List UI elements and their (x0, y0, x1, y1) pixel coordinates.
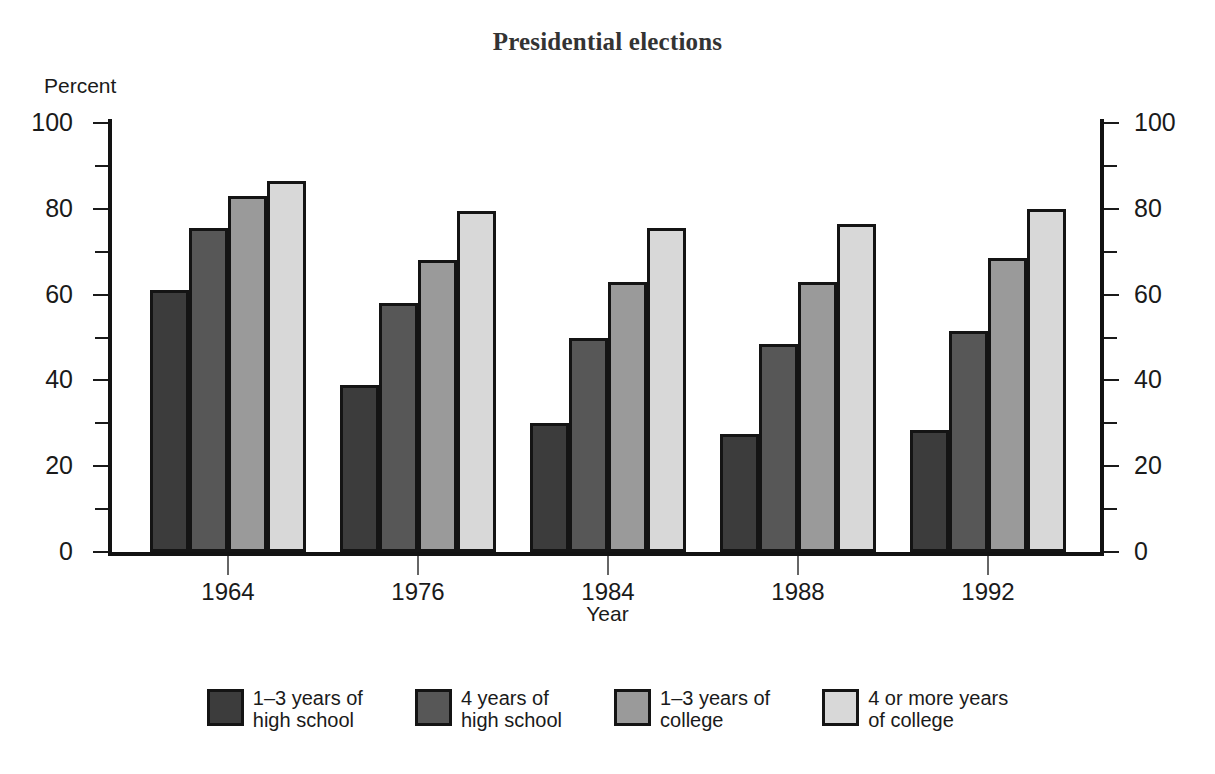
x-tick-1992 (987, 556, 989, 575)
legend-item-0[interactable]: 1–3 years of high school (207, 688, 363, 731)
bar-1964-series-3 (267, 181, 306, 552)
y-tick-left-60 (93, 294, 108, 296)
y-tick-label-right-40: 40 (1134, 367, 1162, 392)
y-minor-tick-left-10 (95, 508, 108, 510)
legend-label-3: 4 or more years of college (868, 688, 1008, 731)
legend-label-0: 1–3 years of high school (253, 688, 363, 731)
y-tick-right-60 (1104, 294, 1119, 296)
bar-1976-series-3 (457, 211, 496, 552)
bar-1988-series-0 (720, 434, 759, 552)
x-tick-1964 (227, 556, 229, 575)
x-tick-1984 (607, 556, 609, 575)
y-minor-tick-left-70 (95, 251, 108, 253)
bar-1984-series-3 (647, 228, 686, 552)
y-tick-label-right-60: 60 (1134, 282, 1162, 307)
y-tick-left-100 (93, 122, 108, 124)
y-minor-tick-left-90 (95, 165, 108, 167)
bar-1984-series-2 (608, 282, 647, 552)
legend-swatch-icon-3 (822, 689, 859, 726)
bar-1976-series-2 (418, 260, 457, 552)
y-minor-tick-right-10 (1104, 508, 1117, 510)
legend-swatch-icon-2 (614, 689, 651, 726)
y-minor-tick-right-50 (1104, 337, 1117, 339)
legend-swatch-icon-0 (207, 689, 244, 726)
y-minor-tick-right-70 (1104, 251, 1117, 253)
chart-legend: 1–3 years of high school4 years of high … (0, 688, 1215, 731)
plot-area: 100100808060604040202000 196419761984198… (112, 123, 1100, 552)
legend-label-1: 4 years of high school (461, 688, 562, 731)
bar-1984-series-0 (530, 423, 569, 552)
legend-label-2: 1–3 years of college (660, 688, 770, 731)
y-tick-label-left-100: 100 (31, 110, 73, 135)
y-tick-label-left-20: 20 (45, 453, 73, 478)
y-tick-left-40 (93, 379, 108, 381)
y-tick-right-20 (1104, 465, 1119, 467)
bar-1988-series-3 (837, 224, 876, 552)
bar-1984-series-1 (569, 338, 608, 553)
y-axis-left-line (108, 119, 112, 556)
y-axis-label: Percent (44, 74, 116, 98)
bar-1992-series-2 (988, 258, 1027, 552)
bar-1976-series-1 (379, 303, 418, 552)
y-tick-label-left-0: 0 (59, 539, 73, 564)
y-tick-right-80 (1104, 208, 1119, 210)
y-tick-right-40 (1104, 379, 1119, 381)
y-tick-label-left-60: 60 (45, 282, 73, 307)
y-tick-label-right-0: 0 (1134, 539, 1148, 564)
x-axis-label: Year (0, 602, 1215, 626)
bar-1992-series-1 (949, 331, 988, 552)
page-title: Presidential elections (0, 28, 1215, 56)
y-tick-label-left-80: 80 (45, 196, 73, 221)
legend-item-3[interactable]: 4 or more years of college (822, 688, 1008, 731)
y-minor-tick-right-90 (1104, 165, 1117, 167)
x-tick-1988 (797, 556, 799, 575)
legend-swatch-icon-1 (415, 689, 452, 726)
y-minor-tick-right-30 (1104, 422, 1117, 424)
bar-1964-series-0 (150, 290, 189, 552)
y-tick-left-20 (93, 465, 108, 467)
x-axis-line (108, 552, 1104, 556)
y-tick-label-right-20: 20 (1134, 453, 1162, 478)
bar-1964-series-1 (189, 228, 228, 552)
y-tick-left-0 (93, 551, 108, 553)
y-tick-right-0 (1104, 551, 1119, 553)
legend-item-2[interactable]: 1–3 years of college (614, 688, 770, 731)
bar-1988-series-1 (759, 344, 798, 552)
bar-1988-series-2 (798, 282, 837, 552)
bar-1976-series-0 (340, 385, 379, 552)
bar-1992-series-0 (910, 430, 949, 552)
bar-1992-series-3 (1027, 209, 1066, 552)
y-tick-right-100 (1104, 122, 1119, 124)
bar-1964-series-2 (228, 196, 267, 552)
y-tick-label-right-100: 100 (1134, 110, 1176, 135)
y-minor-tick-left-50 (95, 337, 108, 339)
legend-item-1[interactable]: 4 years of high school (415, 688, 562, 731)
y-tick-left-80 (93, 208, 108, 210)
x-tick-1976 (417, 556, 419, 575)
y-tick-label-right-80: 80 (1134, 196, 1162, 221)
y-minor-tick-left-30 (95, 422, 108, 424)
y-tick-label-left-40: 40 (45, 367, 73, 392)
